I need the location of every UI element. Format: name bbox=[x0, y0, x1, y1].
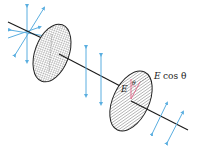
label-E-cos-theta-rest: cos θ bbox=[163, 71, 186, 81]
label-E: E bbox=[120, 84, 128, 94]
polarization-diagram: E θ E cos θ bbox=[0, 0, 200, 149]
polarized-light-arrows bbox=[86, 47, 101, 104]
label-theta: θ bbox=[132, 79, 136, 86]
label-E-cos-theta-E: E bbox=[153, 71, 161, 81]
transmitted-light-arrows bbox=[152, 103, 183, 143]
